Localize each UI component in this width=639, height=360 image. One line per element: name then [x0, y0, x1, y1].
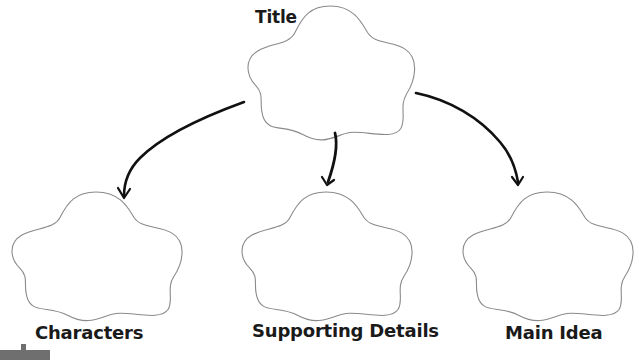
characters-label: Characters: [35, 322, 143, 343]
arrow-to-supporting-details: [322, 133, 336, 185]
arrow-to-characters: [118, 102, 244, 198]
corner-widget: [0, 350, 50, 360]
title-label: Title: [255, 7, 297, 27]
main-idea-label: Main Idea: [505, 322, 602, 343]
diagram-canvas: [0, 0, 639, 360]
supporting-details-cloud: [242, 192, 412, 321]
characters-cloud: [12, 192, 182, 321]
main-idea-cloud: [463, 192, 633, 321]
arrow-to-main-idea: [416, 93, 523, 185]
supporting-details-label: Supporting Details: [252, 320, 439, 341]
